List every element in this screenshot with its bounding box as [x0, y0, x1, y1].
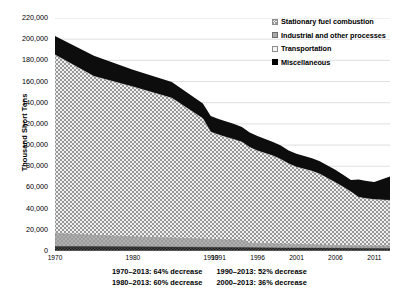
- y-axis-tick-label: 140,000: [22, 99, 48, 107]
- x-axis-tick-label: 2001: [289, 253, 304, 262]
- legend-item-industrial-and-other-processes[interactable]: Industrial and other processes: [272, 29, 404, 43]
- x-axis-tick-labels: 19701980199019911996200120062011: [55, 253, 390, 265]
- y-axis-tick-label: 220,000: [22, 14, 48, 22]
- legend-item-transportation[interactable]: Transportation: [272, 42, 404, 56]
- y-axis-tick-label: 60,000: [26, 183, 48, 191]
- caption-column-right: 1990–2013: 52% decrease 2000–2013: 36% d…: [216, 267, 306, 288]
- y-axis-tick-label: 200,000: [22, 35, 48, 43]
- legend-swatch-icon: [272, 19, 278, 25]
- caption-column-left: 1970–2013: 64% decrease 1980–2013: 60% d…: [112, 267, 202, 288]
- chart-legend: Stationary fuel combustion Industrial an…: [272, 15, 404, 69]
- y-axis-tick-label: 120,000: [22, 120, 48, 128]
- x-axis-tick-label: 1996: [250, 253, 265, 262]
- legend-label: Industrial and other processes: [281, 31, 386, 40]
- caption-line: 1970–2013: 64% decrease: [112, 267, 202, 278]
- emissions-area-chart: Thousand Short Tons 020,00040,00060,0008…: [0, 0, 404, 301]
- legend-item-stationary-fuel-combustion[interactable]: Stationary fuel combustion: [272, 15, 404, 29]
- area-industrial-and-other-processes: [55, 55, 390, 246]
- x-axis-tick-label: 1980: [126, 253, 141, 262]
- legend-label: Miscellaneous: [281, 58, 330, 67]
- y-axis-tick-label: 100,000: [22, 141, 48, 149]
- y-axis-tick-label: 40,000: [26, 205, 48, 213]
- x-axis-tick-label: 1970: [48, 253, 63, 262]
- x-axis-tick-label: 2011: [367, 253, 381, 262]
- legend-item-miscellaneous[interactable]: Miscellaneous: [272, 56, 404, 70]
- legend-label: Stationary fuel combustion: [281, 17, 374, 26]
- chart-caption: 1970–2013: 64% decrease 1980–2013: 60% d…: [112, 267, 307, 288]
- legend-swatch-icon: [272, 32, 278, 38]
- y-axis-tick-label: 20,000: [26, 226, 48, 234]
- y-axis-tick-label: 80,000: [26, 162, 48, 170]
- legend-swatch-icon: [272, 59, 278, 65]
- y-axis-tick-label: 180,000: [22, 56, 48, 64]
- legend-label: Transportation: [281, 44, 331, 53]
- y-axis-tick-labels: 020,00040,00060,00080,000100,000120,0001…: [0, 18, 51, 251]
- caption-line: 2000–2013: 36% decrease: [216, 278, 306, 289]
- x-axis-tick-label: 2006: [328, 253, 343, 262]
- caption-line: 1990–2013: 52% decrease: [216, 267, 306, 278]
- caption-line: 1980–2013: 60% decrease: [112, 278, 202, 289]
- y-axis-tick-label: 160,000: [22, 78, 48, 86]
- x-axis-tick-label: 1991: [211, 253, 226, 262]
- legend-swatch-icon: [272, 46, 278, 52]
